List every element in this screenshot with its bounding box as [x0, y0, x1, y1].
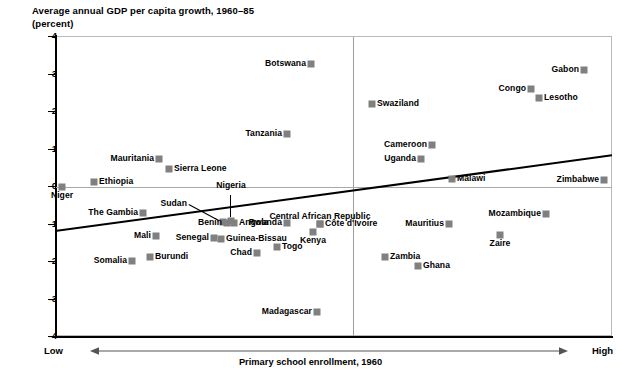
data-point-marker[interactable]: [140, 210, 147, 217]
x-axis-title: Primary school enrollment, 1960: [0, 357, 621, 367]
data-point-label: Congo: [499, 83, 526, 93]
data-point-label: Uganda: [384, 153, 416, 163]
data-point-marker[interactable]: [153, 232, 160, 239]
page-title: Average annual GDP per capita growth, 19…: [32, 4, 254, 30]
data-point-marker[interactable]: [284, 130, 291, 137]
data-point-label: Burundi: [155, 251, 188, 261]
data-point-label: Mali: [134, 230, 151, 240]
data-point-label: Zaire: [490, 238, 511, 248]
data-point-label: Mauritania: [111, 153, 154, 163]
zero-reference-line: [56, 187, 612, 188]
data-point-marker[interactable]: [429, 141, 436, 148]
data-point-label: Nigeria: [216, 180, 245, 190]
data-point-label: Gabon: [552, 64, 579, 74]
x-axis-high-label: High: [592, 345, 613, 356]
data-point-label: The Gambia: [88, 207, 138, 217]
data-point-marker[interactable]: [129, 258, 136, 265]
data-point-marker[interactable]: [369, 100, 376, 107]
data-point-label: Somalia: [94, 255, 127, 265]
data-point-label: Ethiopia: [99, 176, 133, 186]
data-point-label: Mozambique: [488, 208, 541, 218]
data-point-label: Swaziland: [377, 98, 419, 108]
data-point-marker[interactable]: [254, 249, 261, 256]
data-point-label: Botswana: [265, 58, 306, 68]
x-axis-low-label: Low: [44, 345, 63, 356]
data-point-label: Senegal: [176, 232, 209, 242]
data-point-label: Ghana: [423, 260, 450, 270]
data-point-marker[interactable]: [274, 243, 281, 250]
x-axis-line: [55, 336, 613, 338]
data-point-label: Benin: [198, 217, 222, 227]
data-point-marker[interactable]: [231, 219, 238, 226]
data-point-marker[interactable]: [91, 178, 98, 185]
data-point-marker[interactable]: [528, 85, 535, 92]
data-point-marker[interactable]: [581, 66, 588, 73]
data-point-label: Madagascar: [262, 306, 312, 316]
data-point-label: Sierra Leone: [174, 163, 227, 173]
data-point-label: Mauritius: [405, 218, 444, 228]
data-point-marker[interactable]: [147, 253, 154, 260]
data-point-marker[interactable]: [211, 234, 218, 241]
data-point-marker[interactable]: [382, 253, 389, 260]
data-point-label: Niger: [51, 190, 73, 200]
data-point-label: Zimbabwe: [557, 174, 599, 184]
data-point-label: Zambia: [390, 251, 420, 261]
data-point-label: Lesotho: [544, 92, 578, 102]
data-point-marker[interactable]: [166, 166, 173, 173]
data-point-marker[interactable]: [543, 211, 550, 218]
data-point-label: Kenya: [300, 235, 326, 245]
chart-figure: Average annual GDP per capita growth, 19…: [0, 0, 621, 376]
label-leader-line: [230, 195, 231, 217]
data-point-label: Côte d'Ivoire: [325, 218, 377, 228]
data-point-marker[interactable]: [156, 156, 163, 163]
data-point-marker[interactable]: [536, 94, 543, 101]
x-axis-arrow-icon: [90, 344, 568, 358]
data-point-marker[interactable]: [449, 176, 456, 183]
data-point-label: Guinea-Bissau: [226, 233, 287, 243]
data-point-marker[interactable]: [601, 176, 608, 183]
data-point-marker[interactable]: [446, 221, 453, 228]
data-point-marker[interactable]: [415, 262, 422, 269]
data-point-marker[interactable]: [317, 220, 324, 227]
data-point-marker[interactable]: [308, 61, 315, 68]
data-point-label: Togo: [282, 241, 303, 251]
y-axis-line: [55, 35, 57, 337]
plot-area: [55, 36, 612, 336]
data-point-label: Cameroon: [384, 139, 427, 149]
data-point-marker[interactable]: [224, 219, 231, 226]
data-point-marker[interactable]: [418, 156, 425, 163]
data-point-label: Malawi: [457, 173, 485, 183]
data-point-label: Sudan: [160, 198, 187, 208]
data-point-marker[interactable]: [314, 308, 321, 315]
data-point-marker[interactable]: [218, 236, 225, 243]
data-point-label: Chad: [230, 247, 252, 257]
data-point-label: Tanzania: [245, 128, 282, 138]
